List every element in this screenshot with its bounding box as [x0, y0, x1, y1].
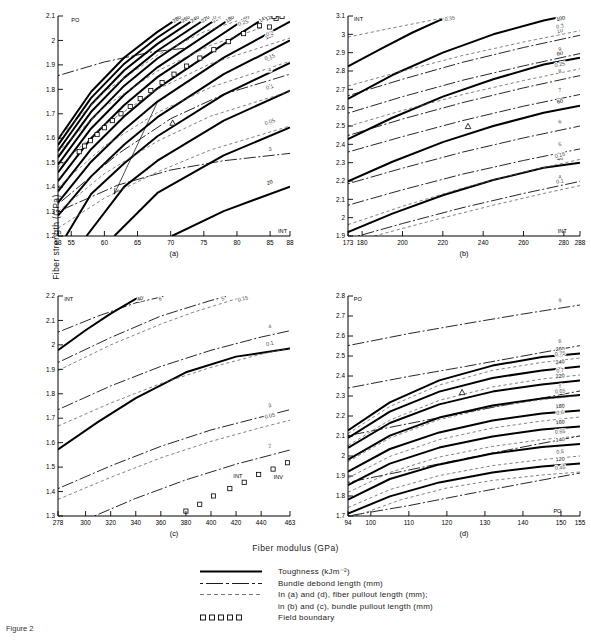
field-boundary-marker	[184, 64, 188, 68]
contour-d-160	[348, 426, 580, 485]
region-label-po: PO	[71, 17, 80, 23]
plot-b: 1201201001008080606040401010998877665544…	[320, 6, 591, 268]
legend-key-dashdot	[198, 578, 272, 590]
x-tick-label: 70	[167, 239, 175, 246]
x-tick-label: 173	[343, 239, 354, 246]
contour-label-d-po-0.65: 0.65	[555, 387, 566, 394]
y-tick-label: 1.6	[46, 439, 55, 446]
field-boundary-marker	[119, 112, 123, 116]
contour-label-d-debond-9: 9	[558, 297, 562, 303]
contour-c-bp-0.05	[58, 420, 290, 499]
contour-b-40	[348, 163, 580, 232]
contour-label-c-debond-4: 4	[268, 323, 272, 330]
contour-label-a-debond-3: 3	[268, 146, 272, 152]
contour-label-d-240: 240	[555, 358, 565, 365]
contour-label-b-bp-0.25: 0.25	[554, 60, 565, 68]
contour-label-c-bp-0.15: 0.15	[237, 294, 249, 302]
field-boundary-marker	[212, 48, 216, 52]
x-tick-label: 220	[437, 239, 448, 246]
contour-c-bp-0.15	[58, 296, 246, 370]
plot-d: 2602602402402202202002001801801601601401…	[320, 286, 591, 548]
contour-label-a-240: 240	[189, 14, 200, 24]
contour-label-b-debond-5: 5	[558, 141, 562, 147]
y-tick-label: 1.5	[46, 159, 55, 166]
y-tick-label: 2.2	[46, 292, 55, 299]
contour-label-b-debond-7: 7	[558, 87, 562, 93]
y-tick-label: 2.1	[336, 432, 345, 439]
y-tick-label: 3	[341, 31, 345, 38]
contour-label-d-po-0.60: 0.6	[556, 409, 564, 416]
contour-label-b-debond-6: 6	[558, 118, 562, 124]
y-tick-label: 2.1	[336, 196, 345, 203]
y-tick-label: 1.9	[46, 366, 55, 373]
x-tick-label: 360	[155, 519, 166, 526]
y-tick-label: 2.4	[336, 372, 345, 379]
triangle-marker	[170, 120, 176, 125]
plot-a: 2802802602602402402202202002001801801601…	[30, 6, 320, 268]
chart-panel-b: 1201201001008080606040401010998877665544…	[320, 6, 591, 268]
y-tick-label: 2.3	[336, 392, 345, 399]
figure-legend: Toughness (kJm⁻²) Bundle debond length (…	[198, 566, 433, 624]
contour-label-d-po-0.75: 0.75	[554, 350, 565, 357]
field-boundary-marker	[211, 494, 215, 498]
x-tick-label: 155	[575, 519, 586, 526]
contour-label-b-bp-0.10: 0.1	[556, 177, 565, 184]
x-tick-label: 463	[285, 519, 296, 526]
contour-label-d-po-0.70: 0.7	[556, 367, 564, 374]
contour-c-bp-0.10	[58, 348, 290, 426]
x-tick-label: 280	[559, 239, 570, 246]
x-tick-label: 180	[357, 239, 368, 246]
triangle-marker	[459, 389, 465, 394]
legend-label-pullout-1: In (a) and (d), fiber pullout length (mm…	[272, 589, 433, 601]
y-tick-label: 2	[341, 214, 345, 221]
x-tick-label: 440	[256, 519, 267, 526]
x-tick-label: 420	[231, 519, 242, 526]
contour-a-40	[114, 127, 290, 236]
contour-label-a-20: 20	[266, 178, 274, 186]
y-tick-label: 2	[341, 452, 345, 459]
y-tick-label: 2	[51, 341, 55, 348]
contour-label-d-140: 140	[555, 436, 564, 443]
contour-label-c-debond-5: 5	[221, 295, 225, 302]
contour-label-d-po-0.50: 0.5	[556, 448, 564, 455]
contour-a-200	[58, 16, 220, 164]
field-boundary-marker	[110, 119, 114, 123]
legend-label-boundary: Field boundary	[272, 612, 433, 624]
contour-c-debond-4	[58, 331, 290, 410]
contour-b-bp-0.15	[348, 159, 580, 224]
chart-panel-d: 2602602402402202202002001801801601601401…	[320, 286, 591, 548]
axis-lines-b	[348, 16, 580, 236]
y-tick-label: 2.9	[336, 49, 345, 56]
contour-label-d-po-0.45: 0.45	[555, 464, 566, 471]
field-label-inv: INV	[274, 474, 284, 480]
contour-label-a-180: 180	[224, 14, 235, 24]
region-label-po: PO	[354, 296, 363, 302]
contour-b-debond-4	[358, 181, 580, 236]
region-label-int: INT	[354, 16, 364, 22]
x-tick-label: 240	[478, 239, 489, 246]
contour-c-debond-2	[94, 450, 290, 516]
x-tick-label: 100	[365, 519, 376, 526]
contour-label-d-160: 160	[555, 418, 564, 425]
chart-panel-a: 2802802602602402402202202002001801801601…	[30, 6, 320, 268]
y-tick-label: 1.9	[336, 472, 345, 479]
legend-key-blank	[198, 601, 272, 613]
x-tick-label: 94	[344, 519, 352, 526]
y-tick-label: 2.6	[336, 104, 345, 111]
field-boundary-marker	[226, 40, 230, 44]
y-tick-label: 1.8	[46, 86, 55, 93]
field-boundary-marker	[242, 32, 246, 36]
y-tick-label: 2.4	[336, 141, 345, 148]
contour-c-20	[58, 349, 290, 450]
field-boundary-marker	[198, 502, 202, 506]
contour-d-debond-5	[348, 473, 580, 516]
contour-label-b-60: 60	[556, 98, 563, 105]
field-boundary-marker	[128, 104, 132, 108]
field-boundary-marker	[285, 461, 289, 465]
contour-label-a-po-0.10: 0.1	[265, 83, 274, 91]
x-tick-label: 140	[518, 519, 529, 526]
field-boundary-marker	[271, 467, 275, 471]
contour-d-debond-8	[348, 346, 580, 388]
x-tick-label: 288	[575, 239, 586, 246]
contour-d-180	[348, 410, 580, 471]
